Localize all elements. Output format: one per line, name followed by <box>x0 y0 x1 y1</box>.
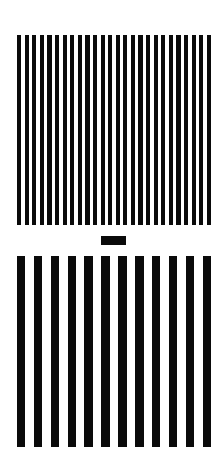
grating-bar <box>154 35 158 225</box>
grating-bar <box>138 35 142 225</box>
grating-bar <box>51 256 59 447</box>
grating-bar <box>169 35 173 225</box>
grating-bar <box>184 35 188 225</box>
grating-bar <box>17 256 25 447</box>
grating-bar <box>186 256 194 447</box>
grating-bar <box>17 35 21 225</box>
grating-bar <box>116 35 120 225</box>
grating-bar <box>68 256 76 447</box>
grating-bar <box>101 256 109 447</box>
grating-bar <box>63 35 67 225</box>
grating-bar <box>47 35 51 225</box>
bottom-grating <box>17 256 211 447</box>
grating-bar <box>176 35 180 225</box>
grating-bar <box>32 35 36 225</box>
top-grating <box>17 35 211 225</box>
grating-bar <box>146 35 150 225</box>
grating-bar <box>199 35 203 225</box>
grating-bar <box>207 35 211 225</box>
grating-bar <box>152 256 160 447</box>
grating-bar <box>55 35 59 225</box>
grating-bar <box>84 256 92 447</box>
grating-bar <box>25 35 29 225</box>
grating-bar <box>40 35 44 225</box>
grating-bar <box>161 35 165 225</box>
grating-bar <box>118 256 126 447</box>
grating-bar <box>85 35 89 225</box>
grating-bar <box>34 256 42 447</box>
grating-bar <box>192 35 196 225</box>
grating-bar <box>123 35 127 225</box>
grating-bar <box>203 256 211 447</box>
grating-bar <box>135 256 143 447</box>
grating-bar <box>131 35 135 225</box>
grating-bar <box>108 35 112 225</box>
grating-bar <box>93 35 97 225</box>
grating-bar <box>101 35 105 225</box>
grating-bar <box>78 35 82 225</box>
grating-bar <box>70 35 74 225</box>
fixation-mark <box>101 236 126 245</box>
grating-bar <box>169 256 177 447</box>
